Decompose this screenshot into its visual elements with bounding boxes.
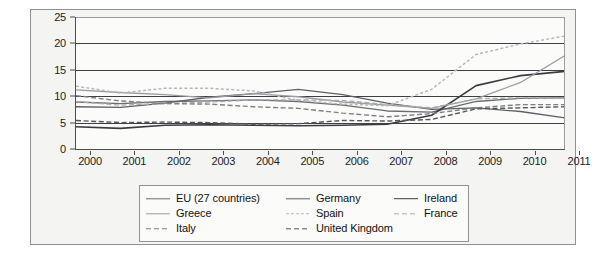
x-tick-mark: [401, 151, 402, 155]
legend-label: Italy: [176, 223, 196, 234]
x-tick-label: 2000: [78, 156, 102, 167]
legend-item[interactable]: Germany: [286, 193, 394, 204]
legend-line-swatch: [394, 209, 418, 218]
y-tick-label: 10: [54, 91, 66, 102]
x-tick-mark: [179, 151, 180, 155]
legend-line-swatch: [286, 224, 310, 233]
legend-item[interactable]: France: [394, 208, 458, 219]
chart-legend: EU (27 countries)GermanyIrelandGreeceSpa…: [139, 185, 469, 242]
legend-item[interactable]: Spain: [286, 208, 394, 219]
series-line: [76, 36, 565, 106]
legend-label: France: [424, 208, 458, 219]
x-tick-label: 2002: [167, 156, 191, 167]
x-tick-label: 2003: [212, 156, 236, 167]
legend-row: EU (27 countries)GermanyIreland: [146, 191, 460, 206]
legend-line-swatch: [286, 209, 310, 218]
legend-line-swatch: [146, 209, 170, 218]
legend-line-swatch: [286, 194, 310, 203]
y-tick-label: 25: [54, 12, 66, 23]
x-tick-label: 2005: [300, 156, 324, 167]
plot-area-wrapper: 0510152025 20002001200220032004200520062…: [46, 17, 564, 165]
x-tick-label: 2004: [256, 156, 280, 167]
legend-label: EU (27 countries): [176, 193, 260, 204]
x-tick-mark: [357, 151, 358, 155]
x-tick-label: 2009: [478, 156, 502, 167]
legend-line-swatch: [146, 224, 170, 233]
x-tick-mark: [446, 151, 447, 155]
x-tick-mark: [579, 151, 580, 155]
plot-area: [75, 17, 565, 150]
legend-row: ItalyUnited Kingdom: [146, 221, 460, 236]
y-tick-label: 5: [60, 117, 66, 128]
x-tick-mark: [535, 151, 536, 155]
x-tick-label: 2010: [523, 156, 547, 167]
x-tick-label: 2006: [345, 156, 369, 167]
y-tick-label: 15: [54, 64, 66, 75]
legend-item[interactable]: Greece: [146, 208, 286, 219]
chart-figure: 0510152025 20002001200220032004200520062…: [30, 9, 576, 245]
legend-item[interactable]: Ireland: [394, 193, 457, 204]
series-lines: [76, 17, 565, 149]
legend-item[interactable]: EU (27 countries): [146, 193, 286, 204]
x-tick-mark: [490, 151, 491, 155]
x-tick-mark: [223, 151, 224, 155]
legend-item[interactable]: United Kingdom: [286, 223, 394, 234]
legend-line-swatch: [394, 194, 418, 203]
y-tick-label: 20: [54, 38, 66, 49]
legend-label: Spain: [316, 208, 344, 219]
x-tick-mark: [312, 151, 313, 155]
x-tick-label: 2007: [389, 156, 413, 167]
y-axis: 0510152025: [46, 17, 70, 149]
legend-line-swatch: [146, 194, 170, 203]
legend-label: Greece: [176, 208, 211, 219]
legend-label: Ireland: [424, 193, 457, 204]
x-tick-label: 2011: [568, 156, 591, 167]
y-tick-label: 0: [60, 144, 66, 155]
x-tick-label: 2001: [123, 156, 147, 167]
x-tick-label: 2008: [434, 156, 458, 167]
legend-label: Germany: [316, 193, 361, 204]
x-tick-mark: [90, 151, 91, 155]
legend-row: GreeceSpainFrance: [146, 206, 460, 221]
x-tick-mark: [268, 151, 269, 155]
legend-label: United Kingdom: [316, 223, 393, 234]
x-axis: 2000200120022003200420052006200720082009…: [90, 151, 579, 169]
x-tick-mark: [134, 151, 135, 155]
legend-item[interactable]: Italy: [146, 223, 286, 234]
